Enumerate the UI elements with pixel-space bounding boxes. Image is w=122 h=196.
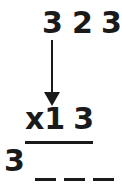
multiplier-digit-2: 3 — [73, 101, 94, 136]
answer-blank-3[interactable] — [93, 178, 114, 181]
multiplier-row: x13 — [25, 104, 94, 134]
top-digit-1: 3 — [42, 8, 63, 38]
top-digit-3: 3 — [101, 8, 122, 38]
answer-blank-1[interactable] — [35, 178, 56, 181]
sum-line — [25, 141, 93, 144]
multiply-sign: x — [25, 101, 44, 136]
multiplier-digit-1: 1 — [44, 101, 65, 136]
top-digit-2: 2 — [72, 8, 93, 38]
arrow-shaft — [51, 40, 53, 94]
answer-blank-2[interactable] — [64, 178, 85, 181]
answer-digit-1: 3 — [4, 146, 25, 176]
